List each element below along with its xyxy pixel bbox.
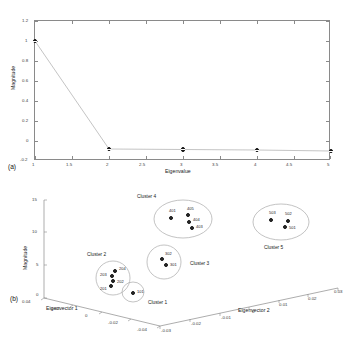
panel-b-point-label-501: 501 — [289, 225, 296, 230]
panel-b-ztick-1: 10 — [32, 229, 37, 234]
cluster-4-ellipse — [154, 200, 212, 238]
panel-b-xtick-2: 0 — [85, 313, 87, 318]
panel-b-ytick-4: 0.01 — [279, 302, 288, 307]
cluster-label-1: Cluster 1 — [148, 300, 167, 305]
panel-a-xtick-8: 5 — [327, 162, 329, 167]
panel-b-point-label-502: 502 — [285, 211, 292, 216]
panel-a-xtick-2: 2 — [106, 162, 108, 167]
panel-b-axes-svg — [0, 178, 349, 339]
cluster-label-3: Cluster 3 — [190, 261, 209, 266]
panel-b-xtick-1: 0.02 — [51, 306, 60, 311]
panel-b-point-label-201: 201 — [100, 286, 107, 291]
panel-b-xtick-mark — [41, 298, 44, 300]
panel-a-marker-cross — [329, 151, 332, 152]
panel-a-ytick-0: 1.2 — [22, 18, 28, 23]
panel-a-ytick-2: 0.8 — [22, 58, 28, 63]
panel-b-xtick-0: 0.04 — [22, 299, 31, 304]
panel-b-point-label-204: 204 — [119, 266, 126, 271]
panel-a-ytick-4: 0.4 — [22, 98, 28, 103]
panel-b-point-label-405: 405 — [187, 206, 194, 211]
panel-a-identifier: (a) — [8, 163, 16, 170]
cluster-5-ellipse — [253, 204, 309, 240]
cluster-label-5: Cluster 5 — [264, 245, 283, 250]
panel-a-x-axis-label: Eigenvalue — [165, 168, 191, 174]
panel-a-marker-cross — [255, 150, 258, 151]
panel-a-xtick-3: 2.5 — [139, 162, 145, 167]
panel-a-data-line — [35, 21, 331, 161]
panel-b-ztick-2: 5 — [36, 262, 38, 267]
panel-b-ztick-0: 15 — [32, 197, 37, 202]
panel-a-marker-cross — [181, 149, 184, 150]
panel-a-xtick-4: 3 — [180, 162, 182, 167]
panel-a-marker-cross — [33, 41, 36, 42]
panel-a-scree-plot: (a) Magnitude Eigenvalue 1.2 1 0.8 0.6 0… — [0, 0, 349, 178]
panel-b-xtick-3: -0.02 — [108, 320, 118, 325]
panel-b-ytick-5: 0.02 — [308, 296, 317, 301]
panel-b-point-label-503: 503 — [269, 210, 276, 215]
panel-b-ytick-1: -0.02 — [191, 321, 201, 326]
panel-b-point-label-203: 203 — [100, 272, 107, 277]
panel-b-xtick-mark — [157, 326, 160, 328]
panel-a-ytick-1: 1 — [25, 38, 27, 43]
panel-b-xtick-mark — [99, 312, 102, 314]
panel-a-marker-cross — [107, 149, 110, 150]
panel-b-point-label-302: 302 — [165, 251, 172, 256]
cluster-label-2: Cluster 2 — [87, 252, 106, 257]
panel-b-point-label-202: 202 — [117, 279, 124, 284]
panel-b-point-label-301: 301 — [170, 262, 177, 267]
panel-a-xtick-6: 4 — [254, 162, 256, 167]
panel-b-xtick-mark — [128, 319, 131, 321]
panel-b-ytick-2: -0.01 — [221, 315, 231, 320]
panel-b-ytick-6: 0.03 — [334, 289, 343, 294]
panel-b-point-label-101: 101 — [137, 289, 144, 294]
panel-a-ytick-7: -0.2 — [20, 157, 28, 162]
panel-b-ztick-3: 0 — [36, 292, 38, 297]
panel-a-ytick-5: 0.2 — [22, 118, 28, 123]
panel-a-ytick-6: 0 — [26, 138, 28, 143]
panel-a-xtick-1: 1.5 — [66, 162, 72, 167]
panel-b-point-label-404: 404 — [193, 217, 200, 222]
panel-a-xtick-7: 4.5 — [286, 162, 292, 167]
panel-b-cluster-plot: (b) — [0, 178, 349, 339]
panel-b-point-label-403: 403 — [196, 224, 203, 229]
panel-a-plot-area — [34, 20, 330, 160]
figure-root: (a) Magnitude Eigenvalue 1.2 1 0.8 0.6 0… — [0, 0, 349, 339]
panel-b-ytick-0: -0.03 — [161, 328, 171, 333]
panel-a-xtick-5: 3.5 — [212, 162, 218, 167]
panel-b-xtick-4: -0.04 — [137, 327, 147, 332]
panel-b-z-axis-label: Magnitude — [22, 246, 28, 270]
cluster-label-4: Cluster 4 — [137, 194, 156, 199]
panel-a-ytick-3: 0.6 — [22, 78, 28, 83]
panel-a-y-axis-label: Magnitude — [10, 66, 16, 90]
panel-b-ytick-3: 0 — [252, 309, 254, 314]
panel-b-point-label-401: 401 — [169, 208, 176, 213]
panel-a-xtick-0: 1 — [32, 162, 34, 167]
